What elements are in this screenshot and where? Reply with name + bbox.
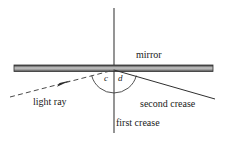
angle-c-label: c [104, 74, 108, 83]
angle-d-label: d [118, 74, 123, 83]
first-crease-label: first crease [116, 118, 160, 128]
diagram-canvas [0, 0, 227, 146]
second-crease-label: second crease [140, 99, 195, 109]
light-ray-arrow-icon [57, 81, 71, 87]
light-ray-label: light ray [33, 97, 67, 107]
mirror-label: mirror [136, 50, 162, 60]
reflection-diagram: mirror light ray second crease first cre… [0, 0, 227, 146]
second-crease-line [114, 70, 215, 99]
